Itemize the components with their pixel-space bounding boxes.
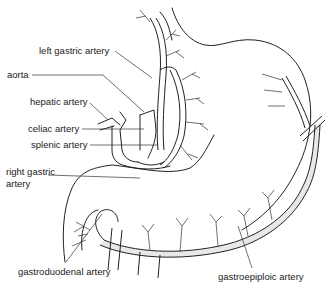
label-left-gastric-artery: left gastric artery — [39, 45, 109, 56]
stomach-artery-diagram: left gastric artery aorta hepatic artery… — [0, 0, 330, 290]
leader-lines — [32, 51, 252, 268]
label-aorta: aorta — [7, 69, 29, 80]
label-splenic-artery: splenic artery — [31, 139, 88, 150]
label-gastroduodenal-artery: gastroduodenal artery — [18, 266, 111, 277]
label-hepatic-artery: hepatic artery — [30, 96, 88, 107]
left-gastric-vessel — [136, 10, 285, 168]
celiac-trunk — [98, 110, 170, 169]
label-celiac-artery: celiac artery — [28, 123, 79, 134]
label-right-gastric-artery-line2: artery — [6, 178, 31, 189]
label-gastroepiploic-artery: gastroepiploic artery — [218, 271, 304, 282]
label-right-gastric-artery-line1: right gastric — [6, 166, 55, 177]
